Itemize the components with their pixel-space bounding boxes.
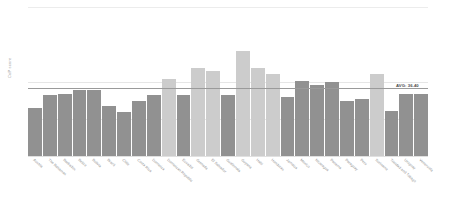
x-label-column: Suriname bbox=[370, 157, 384, 209]
x-label-column: Dominican Republic bbox=[162, 157, 176, 209]
x-label-column: Bolivia bbox=[87, 157, 101, 209]
bar-chart: CoP score 0204080 AVG: 36.40 AustriaThe … bbox=[0, 0, 456, 216]
x-axis-label: Haiti bbox=[255, 158, 263, 166]
x-label-column: Costa Rica bbox=[132, 157, 146, 209]
x-label-column: Guyana bbox=[236, 157, 250, 209]
bar[interactable] bbox=[295, 81, 309, 156]
bar-column[interactable] bbox=[117, 7, 131, 156]
bar[interactable] bbox=[221, 95, 235, 156]
bar[interactable] bbox=[117, 112, 131, 156]
bar[interactable] bbox=[191, 68, 205, 156]
bar-column[interactable] bbox=[177, 7, 191, 156]
x-axis-label: Bolivia bbox=[92, 158, 103, 168]
bar-column[interactable] bbox=[355, 7, 369, 156]
x-label-column: Trinidad and Tobago bbox=[385, 157, 399, 209]
x-label-column: Mexico bbox=[295, 157, 309, 209]
bar[interactable] bbox=[236, 51, 250, 156]
bar[interactable] bbox=[73, 90, 87, 156]
x-label-column: Peru bbox=[355, 157, 369, 209]
bar[interactable] bbox=[206, 71, 220, 156]
bar[interactable] bbox=[414, 94, 428, 156]
bar[interactable] bbox=[132, 101, 146, 156]
bar[interactable] bbox=[399, 94, 413, 156]
x-axis-label: Belize bbox=[77, 158, 87, 168]
bar[interactable] bbox=[310, 85, 324, 156]
x-axis-labels: AustriaThe BahamasBarbadosBelizeBoliviaB… bbox=[28, 157, 428, 209]
bar[interactable] bbox=[102, 106, 116, 156]
x-label-column: El Salvador bbox=[206, 157, 220, 209]
bar-column[interactable] bbox=[281, 7, 295, 156]
bar[interactable] bbox=[58, 94, 72, 156]
bar-column[interactable] bbox=[147, 7, 161, 156]
bar-column[interactable] bbox=[414, 7, 428, 156]
average-label: AVG: 36.40 bbox=[396, 83, 419, 88]
x-label-column: Grenada bbox=[191, 157, 205, 209]
bar-column[interactable] bbox=[58, 7, 72, 156]
bar[interactable] bbox=[266, 74, 280, 156]
bar-column[interactable] bbox=[399, 7, 413, 156]
x-label-column: The Bahamas bbox=[43, 157, 57, 209]
bar-column[interactable] bbox=[221, 7, 235, 156]
bar-column[interactable] bbox=[295, 7, 309, 156]
x-label-column: Nicaragua bbox=[310, 157, 324, 209]
x-label-column: Panama bbox=[325, 157, 339, 209]
bar-series bbox=[28, 7, 428, 156]
x-label-column: Brazil bbox=[102, 157, 116, 209]
bar-column[interactable] bbox=[370, 7, 384, 156]
bar-column[interactable] bbox=[102, 7, 116, 156]
x-axis-label: Chile bbox=[121, 158, 130, 167]
bar[interactable] bbox=[385, 111, 399, 156]
bar-column[interactable] bbox=[206, 7, 220, 156]
bar[interactable] bbox=[340, 101, 354, 156]
bar[interactable] bbox=[281, 97, 295, 156]
bar-column[interactable] bbox=[325, 7, 339, 156]
bar[interactable] bbox=[147, 95, 161, 156]
x-label-column: Haiti bbox=[251, 157, 265, 209]
bar-column[interactable] bbox=[385, 7, 399, 156]
x-label-column: Austria bbox=[28, 157, 42, 209]
x-axis-label: Peru bbox=[359, 158, 367, 166]
bar-column[interactable] bbox=[251, 7, 265, 156]
x-label-column: Uruguay bbox=[399, 157, 413, 209]
x-label-column: Venezuela bbox=[414, 157, 428, 209]
x-label-column: Honduras bbox=[266, 157, 280, 209]
x-label-column: Chile bbox=[117, 157, 131, 209]
bar[interactable] bbox=[28, 108, 42, 156]
bar[interactable] bbox=[355, 99, 369, 156]
bar-column[interactable] bbox=[28, 7, 42, 156]
bar[interactable] bbox=[43, 95, 57, 156]
y-axis-title: CoP score bbox=[7, 58, 12, 78]
x-axis-label: Venezuela bbox=[419, 158, 434, 173]
x-label-column: Jamaica bbox=[281, 157, 295, 209]
x-axis-label: Brazil bbox=[107, 158, 117, 167]
bar-column[interactable] bbox=[43, 7, 57, 156]
plot-area: 0204080 AVG: 36.40 bbox=[28, 7, 428, 156]
bar-column[interactable] bbox=[162, 7, 176, 156]
bar-column[interactable] bbox=[340, 7, 354, 156]
bar-column[interactable] bbox=[236, 7, 250, 156]
bar[interactable] bbox=[251, 68, 265, 156]
bar-column[interactable] bbox=[191, 7, 205, 156]
x-label-column: Belize bbox=[73, 157, 87, 209]
bar[interactable] bbox=[162, 79, 176, 156]
bar-column[interactable] bbox=[132, 7, 146, 156]
x-label-column: Paraguay bbox=[340, 157, 354, 209]
bar-column[interactable] bbox=[310, 7, 324, 156]
bar[interactable] bbox=[325, 82, 339, 157]
bar[interactable] bbox=[177, 95, 191, 156]
x-axis-label: Austria bbox=[32, 158, 43, 169]
x-label-column: Barbados bbox=[58, 157, 72, 209]
bar[interactable] bbox=[370, 74, 384, 156]
bar[interactable] bbox=[87, 90, 101, 156]
bar-column[interactable] bbox=[73, 7, 87, 156]
bar-column[interactable] bbox=[87, 7, 101, 156]
x-label-column: Guatemala bbox=[221, 157, 235, 209]
x-label-column: Dominica bbox=[147, 157, 161, 209]
x-label-column: Ecuador bbox=[177, 157, 191, 209]
bar-column[interactable] bbox=[266, 7, 280, 156]
average-reference-line bbox=[28, 88, 428, 89]
